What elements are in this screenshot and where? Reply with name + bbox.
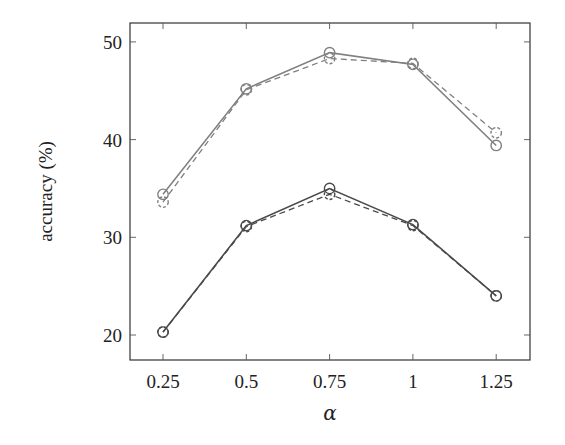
axis-ticks: 0.250.50.7511.2520304050: [103, 23, 530, 392]
x-tick-label: 0.75: [313, 371, 346, 392]
x-tick-label: 1: [408, 371, 418, 392]
y-axis-label: accuracy (%): [35, 141, 57, 242]
series-upper-solid: [158, 47, 502, 199]
series-lower-dashed: [158, 189, 502, 337]
y-tick-label: 20: [103, 325, 122, 346]
series-line: [163, 189, 496, 333]
x-tick-label: 0.25: [146, 371, 179, 392]
y-tick-label: 30: [103, 227, 122, 248]
series-line: [163, 53, 496, 195]
series-upper-dashed: [158, 53, 502, 207]
y-tick-label: 50: [103, 32, 122, 53]
x-tick-label: 1.25: [480, 371, 513, 392]
y-tick-label: 40: [103, 130, 122, 151]
plot-frame: [130, 23, 530, 360]
series-layer: [158, 47, 502, 337]
x-axis-label: α: [323, 401, 337, 425]
series-line: [163, 194, 496, 332]
line-chart: 0.250.50.7511.2520304050 α accuracy (%): [0, 0, 565, 445]
series-lower-solid: [158, 183, 502, 337]
x-tick-label: 0.5: [234, 371, 258, 392]
